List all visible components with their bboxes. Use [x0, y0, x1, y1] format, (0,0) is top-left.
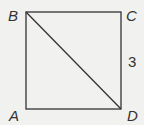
vertex-label-b: B	[8, 7, 18, 24]
diagonal-bd	[26, 12, 121, 109]
vertex-label-c: C	[126, 7, 137, 24]
square-diagram: B C 3 A D	[0, 0, 144, 125]
vertex-label-d: D	[127, 107, 138, 124]
side-length-label: 3	[128, 53, 136, 70]
vertex-label-a: A	[8, 107, 19, 124]
